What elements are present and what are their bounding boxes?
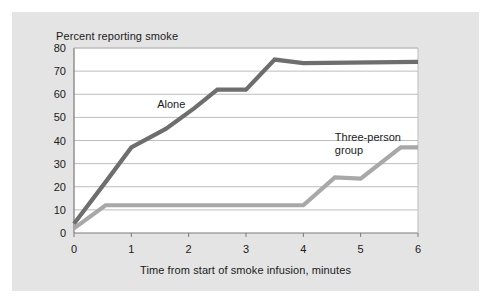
y-tick-label: 10 — [54, 204, 66, 216]
series-label-2: group — [335, 144, 363, 156]
series-label-2: Three-person — [335, 131, 401, 143]
x-tick-label: 1 — [128, 243, 134, 255]
x-axis-title: Time from start of smoke infusion, minut… — [12, 264, 479, 276]
y-axis-tick-labels: 01020304050607080 — [54, 42, 66, 239]
x-tick-label: 6 — [415, 243, 421, 255]
y-tick-label: 40 — [54, 135, 66, 147]
y-tick-label: 0 — [60, 227, 66, 239]
y-tick-label: 50 — [54, 111, 66, 123]
y-tick-label: 20 — [54, 181, 66, 193]
x-axis-tick-labels: 0123456 — [71, 243, 421, 255]
plot-area-wrapper: 01020304050607080 0123456 AloneThree-per… — [12, 12, 479, 291]
x-axis-tick-marks — [74, 233, 418, 237]
figure-panel: Percent reporting smoke 0102030405060708… — [12, 12, 479, 291]
line-chart-svg: 01020304050607080 0123456 AloneThree-per… — [12, 12, 479, 291]
x-tick-label: 3 — [243, 243, 249, 255]
y-tick-label: 80 — [54, 42, 66, 54]
x-tick-label: 0 — [71, 243, 77, 255]
y-tick-label: 30 — [54, 158, 66, 170]
series-label-1: Alone — [157, 98, 185, 110]
x-tick-label: 4 — [300, 243, 306, 255]
x-tick-label: 2 — [186, 243, 192, 255]
y-tick-label: 70 — [54, 65, 66, 77]
y-tick-label: 60 — [54, 88, 66, 100]
x-tick-label: 5 — [358, 243, 364, 255]
